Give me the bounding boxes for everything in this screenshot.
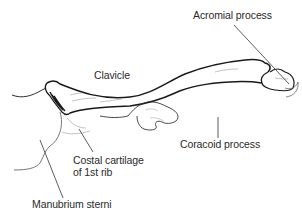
label-manubrium-sterni: Manubrium sterni <box>32 198 112 210</box>
label-acromial-process: Acromial process <box>193 9 272 21</box>
coracoid-shading <box>145 109 164 121</box>
sternal-contour-line <box>12 88 46 97</box>
label-costal-cartilage-line1: Costal cartilage <box>73 154 144 166</box>
leader-line-costal <box>79 129 93 152</box>
label-clavicle: Clavicle <box>94 69 130 81</box>
label-coracoid-process: Coracoid process <box>180 138 260 150</box>
acromioclavicular-joint <box>261 72 268 83</box>
first-rib-outline <box>62 118 90 134</box>
costal-cartilage-outline <box>14 112 62 170</box>
label-costal-cartilage-line2: of 1st rib <box>73 166 112 178</box>
clavicle-upper-edge <box>47 60 270 98</box>
diagram-illustration <box>0 0 302 221</box>
clavicle-lower-edge <box>70 82 262 113</box>
leader-line-manubrium <box>40 140 63 198</box>
clavicle-anatomy-diagram: Clavicle Acromial process Coracoid proce… <box>0 0 302 221</box>
leader-line-acromial <box>234 25 289 84</box>
sternal-end-outline <box>45 83 70 114</box>
sternal-end-shading <box>50 92 65 111</box>
